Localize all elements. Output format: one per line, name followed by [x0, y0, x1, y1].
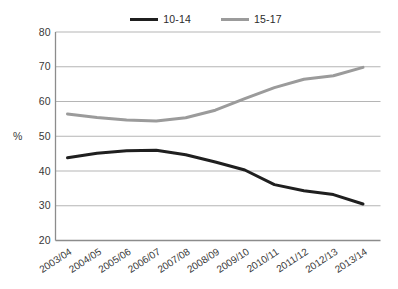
x-tick-label-2012-13: 2012/13 [303, 246, 340, 275]
x-tick-label-2006-07: 2006/07 [126, 246, 163, 275]
x-tick-label-2007-08: 2007/08 [155, 246, 192, 275]
y-tick-label-40: 40 [39, 165, 51, 177]
x-tick-label-2011-12: 2011/12 [274, 246, 310, 275]
series-line-10-14 [68, 150, 364, 204]
y-tick-label-60: 60 [39, 95, 51, 107]
y-tick-label-80: 80 [39, 26, 51, 38]
x-tick-label-2008-09: 2008/09 [185, 246, 222, 275]
series-line-15-17 [68, 67, 364, 121]
x-tick-label-2013-14: 2013/14 [333, 246, 370, 275]
x-tick-label-2005-06: 2005/06 [96, 246, 133, 275]
x-tick-label-2003-04: 2003/04 [37, 246, 74, 275]
y-tick-label-20: 20 [39, 234, 51, 246]
y-tick-label-70: 70 [39, 60, 51, 72]
line-chart-figure: 10-14 15-17 80706050403020%2003/042004/0… [0, 0, 398, 289]
y-axis-label: % [13, 130, 22, 142]
x-tick-label-2009-10: 2009/10 [215, 246, 252, 275]
y-tick-label-30: 30 [39, 199, 51, 211]
x-tick-label-2004-05: 2004/05 [67, 246, 104, 275]
x-tick-label-2010-11: 2010/11 [245, 246, 281, 275]
chart-plot-area: 80706050403020%2003/042004/052005/062006… [0, 0, 398, 289]
y-tick-label-50: 50 [39, 130, 51, 142]
